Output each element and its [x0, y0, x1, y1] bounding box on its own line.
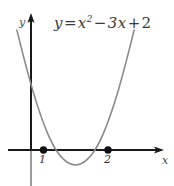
tick-label-root-2: 2 [104, 154, 111, 165]
equation-term1-base: x [78, 14, 87, 32]
equation-equals: = [63, 14, 78, 32]
equation-term1-exponent: 2 [87, 14, 93, 24]
y-axis-label: y [19, 17, 25, 28]
equation-lhs: y [54, 14, 63, 32]
x-axis-label: x [162, 155, 168, 166]
equation-term2: 3x [108, 14, 127, 32]
parabola-curve [17, 30, 134, 165]
equation-term3: 2 [142, 14, 152, 32]
equation-operator-minus: − [93, 14, 108, 32]
equation-operator-plus: + [127, 14, 142, 32]
parabola-figure: y=x2−3x+2 y x 1 2 [0, 0, 174, 186]
equation-label: y=x2−3x+2 [54, 15, 152, 31]
tick-label-root-1: 1 [39, 154, 46, 165]
